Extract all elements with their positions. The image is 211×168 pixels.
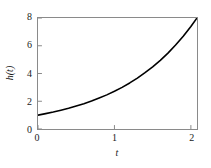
plot-canvas: [38, 18, 197, 129]
x-axis-title: t: [116, 148, 119, 158]
x-tick-label-1: 1: [112, 133, 117, 143]
tick-marks-group: [38, 18, 191, 129]
y-axis-title: h(t): [5, 66, 15, 80]
y-tick-label-0: 0: [27, 125, 32, 135]
data-series-line: [38, 18, 197, 115]
y-tick-label-2: 2: [27, 97, 32, 107]
plot-area: [37, 17, 198, 130]
y-tick-label-6: 6: [27, 40, 32, 50]
x-tick-label-2: 2: [189, 133, 194, 143]
x-tick-label-0: 0: [35, 133, 40, 143]
chart-figure: h(t) 8 6 4 2 0 0 1 2 t: [0, 0, 211, 168]
y-tick-label-4: 4: [27, 69, 32, 79]
y-tick-label-8: 8: [27, 12, 32, 22]
